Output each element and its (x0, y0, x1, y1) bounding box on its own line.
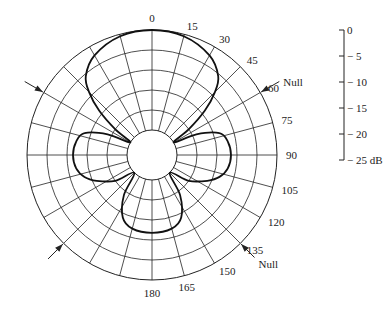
grid-spoke (170, 173, 241, 244)
grid-spoke (64, 67, 135, 138)
arrowhead-icon (34, 85, 42, 92)
grid-spoke (176, 161, 273, 187)
angle-tick-label: 45 (247, 54, 259, 66)
polar-chart: 0153045607590105120135150165180 0− 5− 10… (0, 0, 391, 309)
grid-spoke (64, 173, 135, 244)
db-scale: 0− 5− 10− 15− 20− 25 dB (339, 24, 383, 166)
angle-tick-label: 60 (268, 82, 280, 94)
angle-tick-label: 135 (247, 244, 264, 256)
db-scale-label: − 20 (347, 128, 367, 140)
angle-tick-label: 105 (281, 184, 298, 196)
angle-tick-label: 180 (144, 287, 161, 299)
angle-tick-label: 165 (178, 281, 195, 293)
db-scale-label: − 15 (347, 102, 367, 114)
angle-tick-label: 75 (281, 114, 293, 126)
angle-tick-label: 120 (268, 216, 285, 228)
angle-tick-label: 150 (219, 265, 236, 277)
angle-tick-label: 90 (286, 149, 298, 161)
angle-tick-label: 30 (219, 33, 231, 45)
angle-tick-label: 15 (187, 20, 199, 32)
null-label: Null (259, 258, 279, 270)
grid-spoke (170, 67, 241, 138)
grid-spoke (120, 34, 146, 131)
db-scale-label: 0 (347, 24, 353, 36)
db-scale-label: − 25 dB (347, 154, 383, 166)
grid-spoke (31, 161, 128, 187)
db-scale-label: − 10 (347, 76, 367, 88)
angle-tick-label: 0 (149, 12, 155, 24)
grid-spoke (158, 34, 184, 131)
db-scale-label: − 5 (347, 50, 362, 62)
null-label: Null (283, 76, 303, 88)
